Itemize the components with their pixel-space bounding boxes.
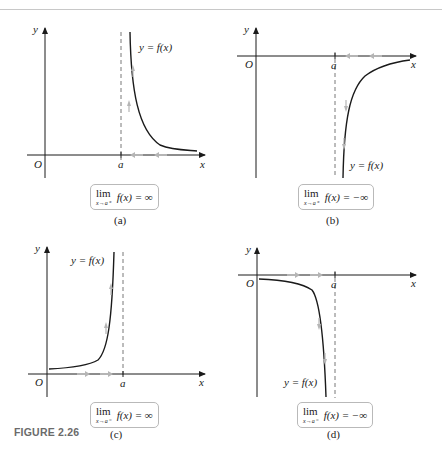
origin-label: O — [246, 277, 254, 289]
panel-caption: (b) — [326, 214, 339, 227]
lim-subscript: x→a⁺ — [96, 200, 111, 206]
lim-expression: f(x) = ∞ — [117, 191, 153, 203]
y-axis-label: y — [32, 23, 38, 35]
lim-expression: f(x) = −∞ — [324, 409, 367, 421]
lim-operator: lim — [96, 188, 111, 199]
lim-operator: lim — [303, 406, 318, 417]
lim-expression: f(x) = ∞ — [117, 409, 153, 421]
y-axis-label: y — [34, 242, 40, 254]
asymptote-label: a — [331, 278, 337, 290]
approach-arrows — [287, 272, 327, 365]
y-axis-label: y — [243, 23, 249, 35]
up-arrow-2 — [127, 100, 131, 112]
curve — [49, 252, 114, 369]
approach-arrows — [342, 53, 382, 150]
y-axis-label: y — [245, 243, 251, 255]
limit-box-b: limx→a⁺ f(x) = −∞ — [298, 184, 374, 210]
lim-subscript: x→a⁻ — [303, 418, 318, 424]
lim-operator: lim — [304, 188, 319, 199]
figure-label: FIGURE 2.26 — [14, 426, 79, 438]
panel-caption: (a) — [114, 214, 127, 227]
x-axis-label: x — [198, 376, 204, 388]
origin-label: O — [34, 158, 42, 170]
approach-arrows — [77, 283, 113, 377]
limit-box-c: limx→a⁻ f(x) = ∞ — [90, 402, 159, 428]
origin-label: O — [245, 58, 253, 70]
panel-caption: (d) — [327, 428, 340, 441]
lim-operator: lim — [96, 406, 111, 417]
x-axis-label: x — [199, 158, 205, 170]
limit-box-a: limx→a⁺ f(x) = ∞ — [90, 184, 159, 210]
limit-box-d: limx→a⁻ f(x) = −∞ — [297, 402, 373, 428]
lim-subscript: x→a⁺ — [304, 200, 319, 206]
curve-label: y = f(x) — [283, 376, 317, 389]
x-axis-label: x — [410, 58, 416, 70]
curve-label: y = f(x) — [349, 159, 383, 172]
curve-label: y = f(x) — [138, 41, 172, 54]
asymptote-label: a — [120, 377, 126, 389]
lim-subscript: x→a⁻ — [96, 418, 111, 424]
asymptote-label: a — [118, 158, 124, 170]
lim-expression: f(x) = −∞ — [325, 191, 368, 203]
panel-caption: (c) — [110, 428, 123, 441]
x-axis-label: x — [410, 277, 416, 289]
asymptote-label: a — [331, 59, 337, 71]
origin-label: O — [35, 376, 43, 388]
curve-label: y = f(x) — [70, 254, 104, 267]
figure-canvas: y x O a y = f(x) (a) y x O a y = f(x) (b… — [0, 0, 442, 464]
